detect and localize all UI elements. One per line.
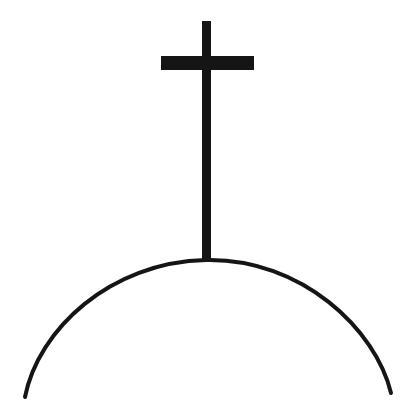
drawing-canvas — [0, 0, 420, 403]
cross-on-hill-illustration — [0, 0, 420, 403]
cross-horizontal-bar — [161, 56, 254, 70]
